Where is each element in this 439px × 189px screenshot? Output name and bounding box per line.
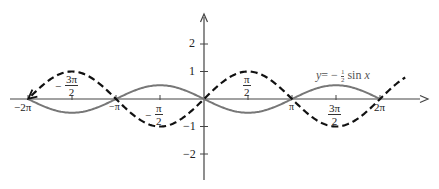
x-tick-label-2pi: 2π [374, 102, 385, 113]
annotation-den: 2 [341, 77, 345, 84]
annotation-fraction: 12 [341, 69, 345, 84]
denominator: 2 [155, 115, 163, 127]
x-tick-label-negpi-over-2: − π 2 [155, 103, 163, 127]
denominator: 2 [243, 86, 251, 98]
y-tick-label-1: 1 [189, 65, 195, 77]
annotation-fn: sin [347, 68, 361, 82]
curve-annotation: y= − 12 sin x [316, 68, 370, 84]
annotation-x: x [364, 68, 369, 82]
x-tick-label-neg3pi-over-2: − 3π 2 [65, 74, 78, 98]
x-tick-label-pi-over-2: π 2 [243, 74, 251, 98]
numerator: 3π [65, 74, 78, 86]
minus-sign: − [145, 110, 151, 121]
numerator: π [155, 103, 163, 115]
x-tick-label-pi: π [289, 102, 294, 112]
numerator: π [243, 74, 251, 86]
x-tick-label-negpi: −π [109, 102, 120, 112]
denominator: 2 [328, 115, 341, 127]
x-axis-arrow-icon [420, 96, 428, 103]
y-tick-label-neg1: −1 [183, 120, 196, 132]
annotation-equals: = − [321, 68, 338, 82]
y-tick-label-neg2: −2 [183, 148, 196, 160]
y-tick-label-2: 2 [189, 37, 195, 49]
chart: 2 1 −1 −2 −2π −π π 2π − 3π 2 − π 2 π 2 3… [0, 0, 439, 189]
numerator: 3π [328, 103, 341, 115]
x-tick-label-3pi-over-2: 3π 2 [328, 103, 341, 127]
x-tick-label-neg2pi: −2π [14, 102, 31, 113]
denominator: 2 [65, 86, 78, 98]
minus-sign: − [55, 81, 61, 92]
